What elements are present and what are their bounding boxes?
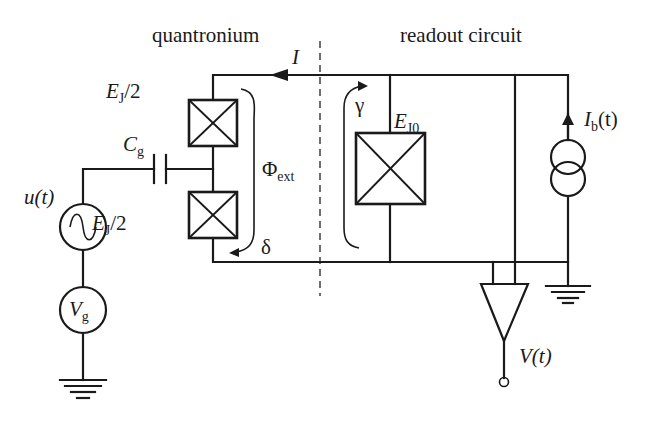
cg-label: Cg <box>123 132 144 159</box>
bias-arrow-icon <box>562 113 574 125</box>
josephson-junction-bottom <box>189 192 237 238</box>
amplifier <box>481 284 528 387</box>
u-t-label: u(t) <box>24 185 54 209</box>
ej-half-top-label: EJ/2 <box>105 79 141 106</box>
bias-current-source <box>551 113 585 196</box>
quantronium-circuit-diagram: quantronium readout circuit I EJ/2 EJ/2 … <box>0 0 658 424</box>
ground-icon-right <box>546 286 590 303</box>
quantronium-title: quantronium <box>152 23 259 47</box>
v-t-label: V(t) <box>519 344 552 368</box>
gamma-arrow-icon <box>358 81 368 91</box>
current-label: I <box>291 45 300 69</box>
svg-text:Vg: Vg <box>69 297 89 324</box>
current-arrow-icon <box>270 69 288 81</box>
ground-icon-left <box>60 380 106 398</box>
gamma-label: γ <box>354 93 364 117</box>
phi-ext-label: Φext <box>262 157 295 184</box>
ej-half-bottom-label: EJ/2 <box>91 211 127 238</box>
delta-label: δ <box>261 235 271 259</box>
delta-arrow-icon <box>229 248 239 257</box>
ib-label: Ib(t) <box>583 107 618 134</box>
vg-source: Vg <box>60 287 106 333</box>
delta-phase-bracket <box>236 89 254 252</box>
readout-circuit-title: readout circuit <box>400 23 522 47</box>
ej0-label: EJ0 <box>393 109 419 136</box>
josephson-junction-top <box>189 100 237 146</box>
josephson-junction-readout <box>356 133 425 204</box>
